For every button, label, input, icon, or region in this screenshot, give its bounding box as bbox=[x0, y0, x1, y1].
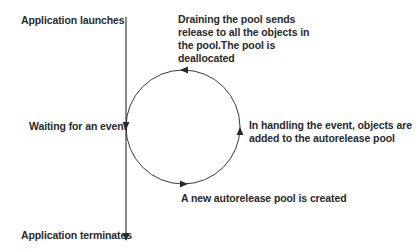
pool-drained-label-line-3: the pool.The pool is bbox=[178, 39, 309, 52]
objects-added-label-line-2: added to the autorelease pool bbox=[249, 132, 412, 145]
autorelease-pool-diagram: Application launches Waiting for an even… bbox=[0, 0, 418, 252]
objects-added-label: In handling the event, objects are added… bbox=[249, 119, 412, 145]
pool-drained-label: Draining the pool sends release to all t… bbox=[178, 13, 309, 65]
cycle-arrow-right-icon bbox=[237, 127, 244, 135]
application-launches-label: Application launches bbox=[21, 14, 125, 27]
waiting-for-event-label: Waiting for an event bbox=[29, 120, 127, 133]
cycle-arrow-top-icon bbox=[180, 67, 188, 74]
application-terminates-label: Application terminates bbox=[21, 229, 132, 242]
new-pool-created-label: A new autorelease pool is created bbox=[181, 192, 347, 205]
event-loop-circle bbox=[126, 70, 240, 184]
pool-drained-label-line-1: Draining the pool sends bbox=[178, 13, 309, 26]
objects-added-label-line-1: In handling the event, objects are bbox=[249, 119, 412, 132]
pool-drained-label-line-2: release to all the objects in bbox=[178, 26, 309, 39]
cycle-arrow-bottom-icon bbox=[180, 181, 188, 188]
pool-drained-label-line-4: deallocated bbox=[178, 52, 309, 65]
